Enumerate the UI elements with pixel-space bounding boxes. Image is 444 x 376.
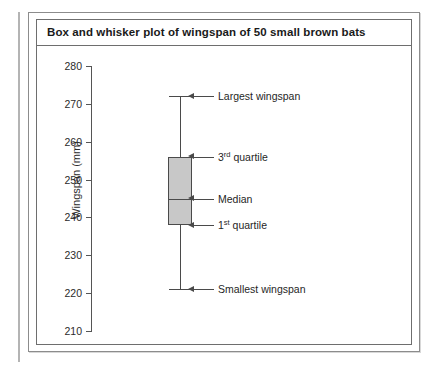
plot-area: Wingspan (mm) 280270260250240230220210 L… (36, 46, 412, 345)
annotation-label-min: Smallest wingspan (218, 284, 306, 295)
upper-whisker-line (180, 96, 181, 157)
y-tick-label-250: 250 (38, 175, 82, 186)
y-tick-250 (86, 180, 91, 181)
annotation-label-median: Median (218, 194, 252, 205)
y-tick-label-280: 280 (38, 61, 82, 72)
y-axis-line (91, 66, 92, 332)
page-edge-rule (18, 12, 20, 362)
y-tick-270 (86, 104, 91, 105)
annotation-label-q3: 3rd quartile (218, 152, 268, 163)
lower-whisker-line (180, 225, 181, 289)
annotation-leader-median (194, 199, 214, 200)
y-tick-240 (86, 217, 91, 218)
annotation-label-q1: 1st quartile (218, 220, 267, 231)
interquartile-box (168, 157, 192, 225)
figure-page: Box and whisker plot of wingspan of 50 s… (0, 0, 444, 376)
chart-title-band: Box and whisker plot of wingspan of 50 s… (36, 19, 412, 46)
y-tick-label-270: 270 (38, 99, 82, 110)
annotation-leader-min (194, 289, 214, 290)
annotation-leader-max (194, 96, 214, 97)
y-tick-label-260: 260 (38, 137, 82, 148)
y-tick-220 (86, 293, 91, 294)
y-tick-260 (86, 142, 91, 143)
y-tick-210 (86, 331, 91, 332)
y-tick-label-230: 230 (38, 250, 82, 261)
y-tick-230 (86, 255, 91, 256)
y-tick-label-220: 220 (38, 288, 82, 299)
annotation-leader-q1 (194, 225, 214, 226)
annotation-leader-q3 (194, 157, 214, 158)
annotation-label-max: Largest wingspan (218, 91, 300, 102)
y-tick-label-240: 240 (38, 212, 82, 223)
chart-title: Box and whisker plot of wingspan of 50 s… (36, 26, 366, 38)
y-tick-label-210: 210 (38, 326, 82, 337)
y-tick-280 (86, 66, 91, 67)
